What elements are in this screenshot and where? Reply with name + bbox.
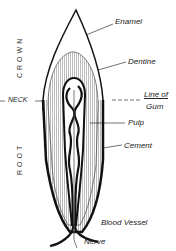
label-gum: Gum	[146, 102, 163, 111]
label-enamel: Enamel	[115, 17, 142, 26]
label-blood-vessel: Blood Vessel	[101, 218, 147, 227]
label-root: ROOT	[16, 143, 23, 175]
tooth-diagram	[0, 0, 176, 251]
label-dentine: Dentine	[128, 57, 156, 66]
label-line-of-gum: Line of	[144, 90, 168, 99]
label-nerve: Nerve	[84, 237, 105, 246]
label-neck: NECK	[8, 96, 27, 103]
label-crown: CROWN	[16, 36, 23, 78]
label-pulp: Pulp	[128, 118, 144, 127]
label-cement: Cement	[124, 141, 152, 150]
